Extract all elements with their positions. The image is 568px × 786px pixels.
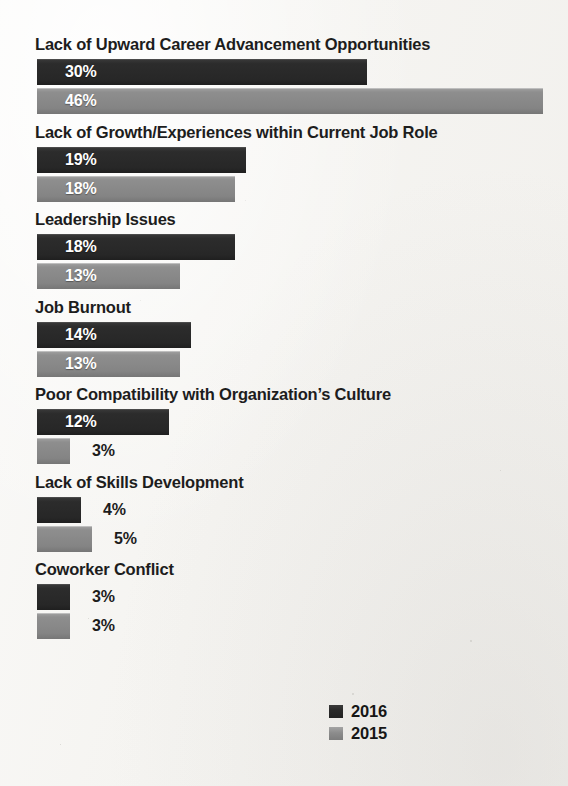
- bar-value-label: 19%: [65, 147, 96, 173]
- bar-2015: [37, 613, 70, 639]
- bar-2016: [37, 322, 191, 348]
- legend-swatch-icon: [329, 727, 343, 740]
- bar-value-label: 14%: [65, 322, 96, 348]
- bar-2015: [37, 526, 92, 552]
- legend-label: 2016: [351, 702, 387, 720]
- bar-value-label: 3%: [92, 613, 115, 639]
- bar-value-label: 13%: [65, 263, 96, 289]
- category-label: Job Burnout: [35, 298, 131, 317]
- bar-row: 3%: [37, 438, 557, 464]
- bar-row: 18%: [37, 176, 557, 202]
- category-label: Lack of Growth/Experiences within Curren…: [35, 123, 438, 142]
- bar-value-label: 4%: [103, 497, 126, 523]
- bar-row: 12%: [37, 409, 557, 435]
- bar-2015: [37, 351, 180, 377]
- category-label: Lack of Upward Career Advancement Opport…: [35, 35, 430, 54]
- bar-value-label: 30%: [65, 59, 96, 85]
- bar-row: 46%: [37, 88, 557, 114]
- bar-value-label: 18%: [65, 234, 96, 260]
- bar-row: 13%: [37, 351, 557, 377]
- bar-row: 3%: [37, 613, 557, 639]
- bar-row: 4%: [37, 497, 557, 523]
- bar-value-label: 3%: [92, 438, 115, 464]
- bar-row: 18%: [37, 234, 557, 260]
- bar-2016: [37, 409, 169, 435]
- bar-value-label: 18%: [65, 176, 96, 202]
- category-label: Leadership Issues: [35, 210, 176, 229]
- bar-value-label: 5%: [114, 526, 137, 552]
- bar-value-label: 12%: [65, 409, 96, 435]
- bar-row: 30%: [37, 59, 557, 85]
- bar-row: 19%: [37, 147, 557, 173]
- bar-2015: [37, 263, 180, 289]
- bar-2016: [37, 584, 70, 610]
- legend-item-2016[interactable]: 2016: [329, 702, 387, 720]
- bar-2015: [37, 88, 543, 114]
- horizontal-bar-chart: Lack of Upward Career Advancement Opport…: [0, 0, 568, 786]
- legend-label: 2015: [351, 724, 387, 742]
- bar-row: 13%: [37, 263, 557, 289]
- bar-value-label: 3%: [92, 584, 115, 610]
- bar-row: 14%: [37, 322, 557, 348]
- bar-2016: [37, 497, 81, 523]
- category-label: Coworker Conflict: [35, 560, 174, 579]
- legend-swatch-icon: [329, 705, 343, 718]
- bar-row: 5%: [37, 526, 557, 552]
- bar-value-label: 46%: [65, 88, 96, 114]
- bar-row: 3%: [37, 584, 557, 610]
- category-label: Lack of Skills Development: [35, 473, 243, 492]
- bar-2015: [37, 438, 70, 464]
- category-label: Poor Compatibility with Organization’s C…: [35, 385, 391, 404]
- legend-item-2015[interactable]: 2015: [329, 724, 387, 742]
- bar-value-label: 13%: [65, 351, 96, 377]
